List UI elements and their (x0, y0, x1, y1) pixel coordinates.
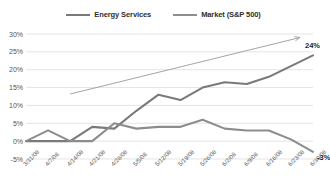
legend-item-market: Market (S&P 500) (173, 11, 261, 19)
chart-svg (0, 24, 327, 183)
legend-item-energy-services: Energy Services (66, 11, 151, 19)
series-line-market (26, 120, 313, 152)
trend-arrow-line (70, 38, 300, 94)
series-line-energy-services (26, 55, 313, 141)
legend-label-energy-services: Energy Services (94, 11, 151, 19)
legend-label-market: Market (S&P 500) (201, 11, 261, 19)
line-swatch-icon-market (173, 14, 197, 16)
data-label: -3% (317, 154, 330, 162)
data-label: 24% (305, 42, 320, 50)
line-swatch-icon-energy (66, 14, 90, 16)
plot-area (0, 24, 327, 183)
chart-legend: Energy Services Market (S&P 500) (0, 6, 327, 24)
